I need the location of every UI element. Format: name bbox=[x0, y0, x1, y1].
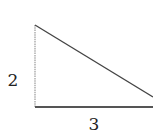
horizontal-leg-label: 3 bbox=[89, 114, 100, 134]
right-triangle-diagram: 2 3 bbox=[0, 0, 153, 139]
hypotenuse-line bbox=[35, 25, 153, 97]
vertical-leg-label: 2 bbox=[8, 70, 19, 90]
